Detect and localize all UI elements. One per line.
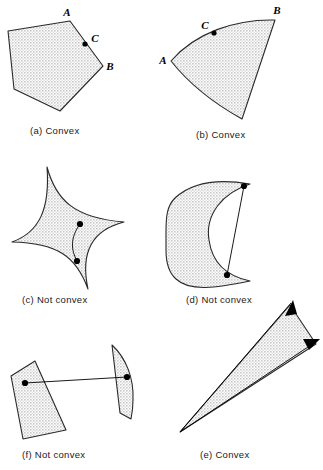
- point-label-b: B: [105, 60, 113, 72]
- point-label-a: A: [158, 54, 166, 66]
- chord-endpoint-1: [77, 221, 83, 227]
- point-c-marker: [211, 30, 216, 35]
- chord-endpoint-2: [74, 258, 80, 264]
- convexity-figure: A C B (a) Convex C B A (b) Convex (c) No…: [0, 0, 323, 470]
- caption-panel-c: (c) Not convex: [22, 294, 87, 305]
- point-label-a: A: [62, 6, 70, 18]
- chord-endpoint-2: [224, 272, 230, 278]
- caption-panel-f: (f) Not convex: [22, 449, 85, 460]
- point-label-b: B: [272, 4, 280, 16]
- point-c-marker: [82, 41, 87, 46]
- caption-panel-b: (b) Convex: [196, 129, 245, 140]
- point-label-c: C: [91, 32, 99, 44]
- caption-panel-e: (e) Convex: [200, 449, 249, 460]
- chord-endpoint-1: [241, 183, 247, 189]
- caption-panel-d: (d) Not convex: [186, 294, 252, 305]
- point-label-c: C: [201, 19, 209, 31]
- chord-endpoint-2: [124, 374, 130, 380]
- caption-panel-a: (a) Convex: [30, 125, 79, 136]
- chord-endpoint-1: [22, 380, 28, 386]
